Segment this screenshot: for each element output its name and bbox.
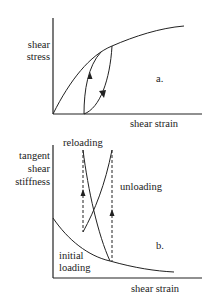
initial-loading-label-line1: initial <box>59 250 84 262</box>
panel-b-unloading-curve <box>83 150 112 232</box>
panel-b-tag: b. <box>156 240 164 252</box>
panel-b-y-label-line2: shear <box>2 163 50 175</box>
panel-a-y-label-line2: stress <box>16 51 50 63</box>
initial-loading-label-line2: loading <box>59 262 91 274</box>
arrow-up-icon <box>110 209 115 216</box>
panel-b-x-label: shear strain <box>131 283 179 295</box>
panel-a-y-label-line1: shear <box>16 39 50 51</box>
panel-a-tag: a. <box>156 73 163 85</box>
panel-a-reloading-branch <box>84 52 101 114</box>
arrow-up-icon <box>81 189 86 196</box>
reloading-label: reloading <box>63 137 103 149</box>
panel-b-reloading-curve <box>83 150 110 261</box>
panel-b-y-label-line1: tangent <box>2 150 50 162</box>
panel-b-y-label-line3: stiffness <box>2 176 50 188</box>
panel-a-backbone-curve <box>53 26 184 114</box>
unloading-label: unloading <box>120 181 162 193</box>
panel-a <box>53 18 202 114</box>
panel-a-x-label: shear strain <box>130 118 178 130</box>
